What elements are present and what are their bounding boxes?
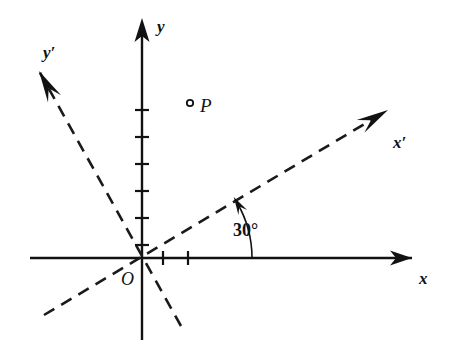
point-p-marker bbox=[187, 100, 193, 106]
origin-label: O bbox=[121, 269, 134, 289]
x-prime-axis-arrowhead bbox=[357, 110, 388, 133]
point-p-label: P bbox=[199, 95, 212, 116]
y-axis-label: y bbox=[155, 17, 165, 36]
y-prime-axis-line bbox=[40, 73, 181, 326]
y-prime-axis-label: y′ bbox=[41, 43, 55, 62]
x-prime-axis-label: x′ bbox=[392, 133, 406, 152]
figure-container: x y x′ y′ O P 30° bbox=[0, 0, 452, 358]
x-prime-axis-line bbox=[44, 111, 386, 315]
coordinate-axes-diagram: x y x′ y′ O P 30° bbox=[0, 0, 452, 358]
angle-label: 30° bbox=[233, 220, 258, 240]
x-axis-label: x bbox=[418, 269, 428, 288]
angle-arc-arrowhead bbox=[234, 197, 247, 215]
y-prime-axis-arrowhead bbox=[39, 71, 61, 103]
